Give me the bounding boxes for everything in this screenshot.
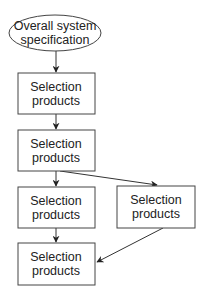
node-overall-system-specification: Overall system specification: [9, 15, 101, 51]
node-label-line1: Selection: [30, 80, 81, 94]
node-label-line1: Selection: [130, 193, 181, 207]
node-label-line2: products: [132, 207, 180, 221]
node-selection-products-2: Selection products: [18, 130, 95, 171]
node-label-line2: specification: [21, 33, 90, 47]
node-label-line2: products: [32, 264, 80, 278]
node-selection-products-right: Selection products: [117, 186, 195, 228]
edge-box2-to-box-right: [60, 171, 157, 185]
flowchart-diagram: Overall system specification Selection p…: [0, 0, 206, 301]
node-label-line1: Selection: [30, 250, 81, 264]
edge-box-right-to-box4: [97, 228, 163, 262]
node-label-line2: products: [32, 94, 80, 108]
node-label-line1: Selection: [30, 137, 81, 151]
node-selection-products-3: Selection products: [18, 187, 95, 228]
node-label-line2: products: [32, 151, 80, 165]
node-label-line1: Overall system: [14, 19, 97, 33]
node-label-line1: Selection: [30, 194, 81, 208]
node-selection-products-1: Selection products: [18, 73, 95, 114]
node-selection-products-4: Selection products: [18, 243, 95, 285]
node-label-line2: products: [32, 208, 80, 222]
